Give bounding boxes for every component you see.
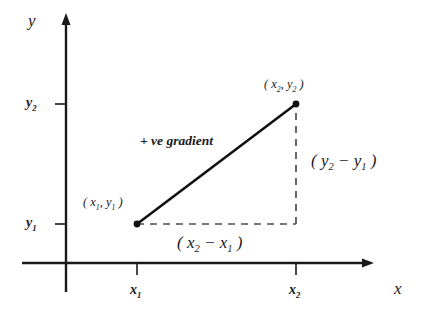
point-2-marker [293,101,300,108]
gradient-line-segment [137,104,296,224]
point-2-coordinate-label: ( x2, y2 ) [264,78,304,93]
y1-tick-label: y1 [26,216,37,232]
y-axis-label: y [28,12,36,29]
point-2-paren-close: ) [296,77,303,91]
y-axis-arrowhead [62,13,71,25]
y2-tick-label-sub: 2 [32,103,36,113]
gradient-annotation-label: + ve gradient [140,134,213,148]
point-1-paren-close: ) [115,195,122,209]
y2-tick-label: y2 [26,96,37,112]
point-1-marker [134,221,141,228]
rise-paren-open: ( [311,151,321,170]
rise-difference-label: ( y2 − y1 ) [311,152,376,173]
x2-tick-label-sub: 2 [296,290,300,300]
run-operator: − [200,233,220,252]
run-paren-open: ( [177,233,187,252]
x1-tick-label: x1 [130,283,141,299]
x1-tick-label-base: x [130,282,137,297]
x-axis-arrowhead [362,259,374,268]
point-1-coordinate-label: ( x1, y1 ) [83,196,123,211]
x2-tick-label: x2 [289,283,300,299]
run-paren-close: ) [233,233,243,252]
gradient-diagram-figure: y x y2 y1 x1 x2 ( x1, y1 ) ( x2, y2 ) + … [0,0,425,320]
x-axis-label: x [394,280,402,297]
y1-tick-label-sub: 1 [32,223,36,233]
rise-paren-close: ) [367,151,377,170]
run-difference-label: ( x2 − x1 ) [177,234,242,255]
rise-operator: − [334,151,354,170]
x1-tick-label-sub: 1 [137,290,141,300]
x2-tick-label-base: x [289,282,296,297]
